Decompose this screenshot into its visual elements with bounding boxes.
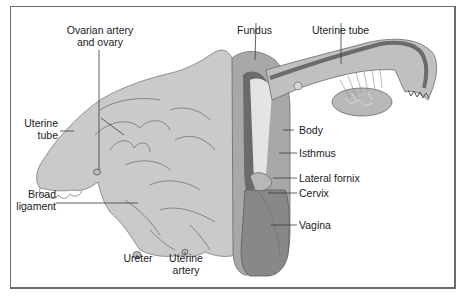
- label-isthmus: Isthmus: [299, 147, 336, 159]
- label-fundus: Fundus: [237, 24, 272, 36]
- broad-ligament-shape: [37, 50, 238, 259]
- label-line: tube: [18, 129, 58, 141]
- label-ovarian-artery-and-ovary: Ovarian artery and ovary: [65, 24, 135, 48]
- label-line: Broad: [14, 188, 56, 200]
- label-uterine-artery: Uterine artery: [164, 252, 208, 276]
- label-line: and ovary: [65, 36, 135, 48]
- label-line: Uterine: [164, 252, 208, 264]
- label-uterine-tube-right: Uterine tube: [312, 24, 369, 36]
- label-broad-ligament: Broad ligament: [14, 188, 56, 212]
- label-line: Uterine: [18, 117, 58, 129]
- label-lateral-fornix: Lateral fornix: [299, 172, 360, 184]
- label-body: Body: [299, 124, 323, 136]
- label-line: artery: [164, 264, 208, 276]
- label-vagina: Vagina: [299, 219, 331, 231]
- label-uterine-tube-left: Uterine tube: [18, 117, 58, 141]
- label-ureter: Ureter: [118, 252, 158, 264]
- right-adnexa-shape: [266, 39, 437, 116]
- label-line: Ovarian artery: [65, 24, 135, 36]
- label-cervix: Cervix: [299, 187, 329, 199]
- label-line: ligament: [14, 200, 56, 212]
